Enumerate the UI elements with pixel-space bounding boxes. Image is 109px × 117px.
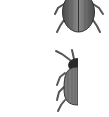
beetle-half-icon (0, 45, 78, 117)
beetle-icon (0, 0, 109, 40)
beetle-full-sprite (0, 0, 109, 40)
beetle-half-sprite (0, 45, 109, 117)
